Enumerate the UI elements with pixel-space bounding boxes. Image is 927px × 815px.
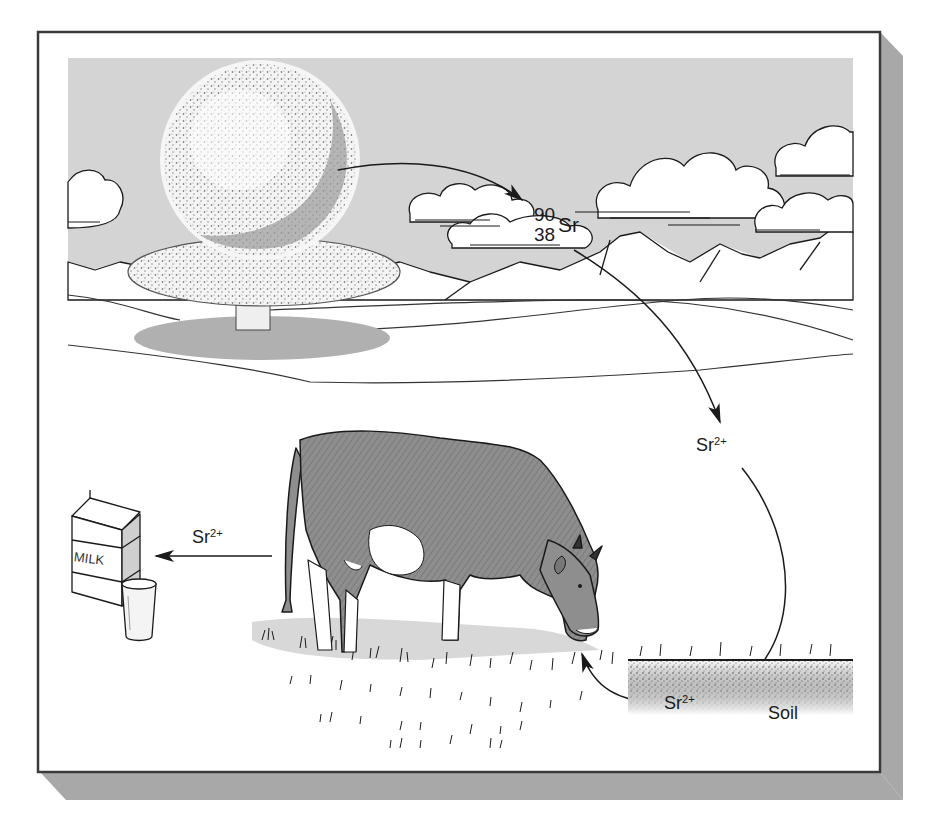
soil-cross-section bbox=[628, 660, 853, 715]
label-sr-ion-soil: Sr2+ bbox=[664, 694, 695, 712]
ion-base: Sr bbox=[664, 693, 682, 713]
isotope-label: 90 38 Sr bbox=[534, 205, 604, 249]
mass-number: 90 bbox=[534, 205, 555, 224]
ion-charge: 2+ bbox=[210, 527, 223, 539]
atomic-number: 38 bbox=[534, 225, 555, 244]
label-soil: Soil bbox=[768, 704, 798, 722]
milk-glass bbox=[122, 579, 156, 641]
label-sr-ion-fallout: Sr2+ bbox=[696, 436, 727, 454]
milk-carton-label: MILK bbox=[73, 550, 105, 567]
mushroom-cloud-cap bbox=[160, 60, 360, 260]
ion-charge: 2+ bbox=[682, 693, 695, 705]
ion-charge: 2+ bbox=[714, 435, 727, 447]
label-sr-ion-milk: Sr2+ bbox=[192, 528, 223, 546]
element-symbol: Sr bbox=[558, 215, 579, 234]
ion-base: Sr bbox=[696, 435, 714, 455]
diagram-canvas: 90 38 Sr Sr2+ Sr2+ Soil Sr2+ MILK bbox=[0, 0, 927, 815]
ion-base: Sr bbox=[192, 527, 210, 547]
